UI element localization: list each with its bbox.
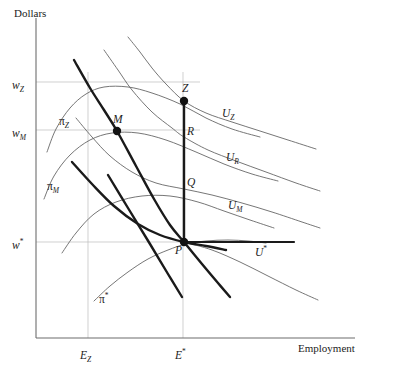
point-marker-M	[113, 127, 121, 135]
curve-label-UZ: UZ	[222, 104, 234, 122]
curves-group	[44, 37, 320, 301]
point-label-R: R	[187, 126, 194, 138]
curve-label-UStar: U*	[255, 243, 267, 259]
curve-UM	[76, 118, 320, 228]
y-tick-label-wz: wZ	[12, 76, 24, 94]
point-label-Q: Q	[187, 177, 195, 189]
point-label-P: P	[175, 245, 182, 257]
curve-M	[44, 132, 278, 199]
curve-Ulower	[184, 242, 318, 300]
economics-diagram: Dollars Employment wZwMw*EZE* MZRQP πZπM…	[0, 0, 397, 368]
curve-label-piZ: πZ	[59, 112, 69, 130]
curve-label-piM: πM	[47, 177, 59, 195]
x-axis-title: Employment	[298, 343, 355, 354]
x-tick-label-estar: E*	[175, 346, 186, 362]
y-tick-label-wstar: w*	[12, 236, 23, 252]
y-axis-title: Dollars	[14, 8, 46, 19]
curve-UZ	[128, 37, 316, 149]
point-marker-Z	[180, 97, 188, 105]
curve-label-UM: UM	[228, 196, 243, 214]
point-label-Z: Z	[182, 83, 188, 95]
points-group	[113, 97, 188, 246]
curve-contract-curve	[74, 60, 230, 297]
curve-labor-demand	[72, 162, 226, 250]
y-tick-label-wm: wM	[12, 124, 26, 142]
curve-label-piStar: π*	[99, 290, 109, 306]
plot-canvas	[0, 0, 397, 368]
x-tick-label-ez: EZ	[80, 346, 91, 364]
axes-group	[36, 18, 355, 338]
curve-label-UR: UR	[226, 148, 239, 166]
point-label-M: M	[113, 114, 123, 126]
